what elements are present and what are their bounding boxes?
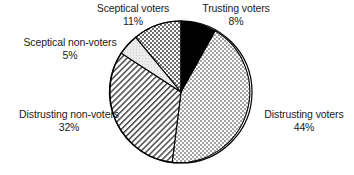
pie-label-distrusting-non-voters-value: 32% [2, 121, 136, 134]
pie-label-trusting-voters-name: Trusting voters [188, 2, 284, 15]
pie-chart-figure: Sceptical voters 11% Trusting voters 8% … [0, 0, 354, 175]
pie-label-sceptical-voters-value: 11% [82, 15, 184, 28]
pie-label-distrusting-non-voters-name: Distrusting non-voters [2, 108, 136, 121]
pie-label-distrusting-voters-value: 44% [256, 121, 352, 134]
pie-label-sceptical-non-voters-value: 5% [8, 49, 132, 62]
pie-label-trusting-voters: Trusting voters 8% [188, 2, 284, 27]
pie-label-trusting-voters-value: 8% [188, 15, 284, 28]
pie-label-distrusting-voters-name: Distrusting voters [256, 108, 352, 121]
pie-label-sceptical-non-voters: Sceptical non-voters 5% [8, 36, 132, 61]
pie-label-distrusting-voters: Distrusting voters 44% [256, 108, 352, 133]
pie-label-distrusting-non-voters: Distrusting non-voters 32% [2, 108, 136, 133]
pie-label-sceptical-voters-name: Sceptical voters [82, 2, 184, 15]
pie-label-sceptical-voters: Sceptical voters 11% [82, 2, 184, 27]
pie-label-sceptical-non-voters-name: Sceptical non-voters [8, 36, 132, 49]
